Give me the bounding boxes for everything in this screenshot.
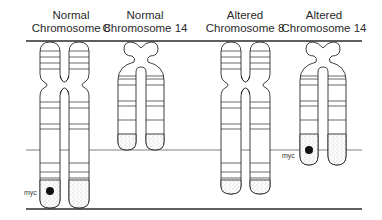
- altered-chromosome-8: [221, 42, 270, 194]
- normal-chromosome-8: [40, 42, 89, 208]
- normal-chromosome-14: [118, 42, 164, 150]
- altered-chromosome-14: [300, 42, 346, 165]
- diagram-graphics: [0, 0, 382, 220]
- chromosome-translocation-diagram: Normal Chromosome 8 Normal Chromosome 14…: [0, 0, 382, 220]
- myc-gene-dot: [46, 187, 54, 195]
- myc-gene-dot: [305, 146, 313, 154]
